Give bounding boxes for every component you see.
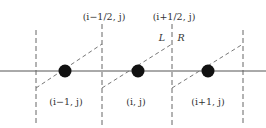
- label-interface-i-minus-half: (i−1/2, j): [83, 11, 126, 22]
- label-right-state: R: [176, 32, 184, 43]
- label-cell-i: (i, j): [126, 96, 145, 107]
- label-left-state: L: [158, 32, 165, 43]
- label-interface-i-plus-half: (i+1/2, j): [153, 11, 196, 22]
- finite-volume-diagram: (i−1/2, j) (i+1/2, j) L R (i−1, j) (i, j…: [0, 0, 266, 128]
- node-i-minus-1: [59, 65, 72, 78]
- node-i-plus-1: [202, 65, 215, 78]
- node-i: [132, 65, 145, 78]
- label-cell-i-plus-1: (i+1, j): [191, 96, 224, 107]
- label-cell-i-minus-1: (i−1, j): [49, 96, 82, 107]
